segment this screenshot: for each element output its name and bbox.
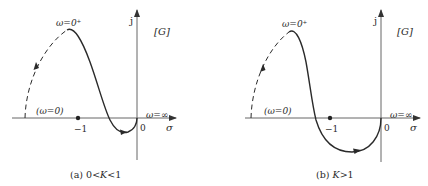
omega-inf-label: ω=∞	[146, 110, 168, 120]
omega-zero-label: (ω=0)	[36, 106, 64, 116]
curve-direction-arrow-icon	[120, 130, 127, 136]
origin-label: 0	[140, 123, 146, 133]
omega-inf-label: ω=∞	[390, 110, 412, 120]
caption-prefix: (b)	[316, 169, 333, 180]
omega-zero-plus-label: ω=0⁺	[282, 19, 308, 29]
caption-b: (b) K>1	[316, 169, 354, 180]
minus-one-point	[76, 116, 80, 120]
caption-a: (a) 0<K<1	[70, 169, 121, 180]
caption-suffix: >1	[340, 169, 354, 180]
plane-label: [G]	[154, 26, 170, 37]
omega-zero-label: (ω=0)	[264, 106, 292, 116]
panel-b: j [G] ω=0⁺ (ω=0) ω=∞ −1 0 σ (b) K>1	[245, 10, 420, 180]
real-axis-label: σ	[410, 122, 418, 133]
minus-one-label: −1	[325, 124, 338, 134]
plane-label: [G]	[397, 26, 413, 37]
real-axis-label: σ	[166, 122, 174, 133]
imag-axis-label: j	[129, 15, 133, 26]
origin-label: 0	[384, 123, 390, 133]
panel-a: j [G] ω=0⁺ (ω=0) ω=∞ −1 0 σ (a) 0<K<1	[12, 10, 176, 180]
nyquist-diagrams: j [G] ω=0⁺ (ω=0) ω=∞ −1 0 σ (a) 0<K<1 j …	[0, 0, 428, 186]
dashed-arc	[25, 30, 67, 118]
caption-prefix: (a) 0<	[70, 169, 100, 180]
omega-zero-plus-label: ω=0⁺	[56, 18, 82, 28]
imag-axis-label: j	[373, 15, 377, 26]
minus-one-label: −1	[74, 124, 87, 134]
arc-direction-arrow-icon	[260, 64, 266, 72]
caption-suffix: <1	[107, 169, 121, 180]
minus-one-point	[328, 116, 332, 120]
